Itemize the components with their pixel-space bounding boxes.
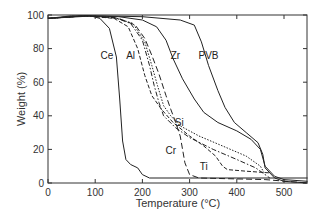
- curve-label-pvb: PVB: [198, 50, 218, 61]
- curve-label-ce: Ce: [101, 50, 114, 61]
- y-tick-label: 0: [38, 178, 44, 189]
- curve-label-zr: Zr: [171, 50, 181, 61]
- y-tick-label: 80: [33, 43, 45, 54]
- curve-label-si: Si: [175, 117, 184, 128]
- x-tick-label: 100: [87, 187, 104, 198]
- x-axis-label: Temperature (°C): [136, 197, 220, 209]
- y-tick-label: 40: [33, 110, 45, 121]
- x-tick-label: 500: [276, 187, 293, 198]
- tga-chart: 0100200300400500020406080100 CeAlSiTiCrZ…: [0, 0, 321, 217]
- x-tick-label: 400: [228, 187, 245, 198]
- y-tick-label: 60: [33, 77, 45, 88]
- y-axis-label: Weight (%): [15, 72, 27, 126]
- curve-label-ti: Ti: [200, 161, 208, 172]
- y-tick-label: 20: [33, 144, 45, 155]
- y-tick-label: 100: [27, 10, 44, 21]
- curve-label-al: Al: [126, 50, 135, 61]
- curve-label-cr: Cr: [165, 145, 176, 156]
- x-tick-label: 0: [45, 187, 51, 198]
